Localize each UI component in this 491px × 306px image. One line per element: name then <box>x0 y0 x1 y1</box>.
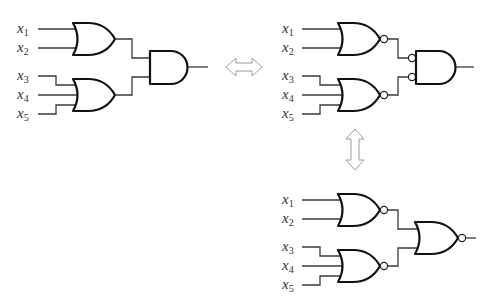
or-gate-2 <box>73 79 115 111</box>
logic-diagram <box>0 0 491 306</box>
nor-bubble-output <box>458 234 465 241</box>
circuit-nor-and <box>302 23 474 114</box>
label-x2: x2 <box>282 40 294 57</box>
label-x3: x3 <box>282 239 294 256</box>
wire-or1-to-and <box>115 39 150 58</box>
nor-gate-2 <box>338 250 380 282</box>
nor-gate-1 <box>338 23 380 55</box>
label-x5: x5 <box>17 106 29 123</box>
and-input-bubble-1 <box>408 54 415 61</box>
label-x4: x4 <box>17 87 29 104</box>
nor-bubble-2 <box>380 262 387 269</box>
nor-bubble-2 <box>380 91 387 98</box>
label-x5: x5 <box>282 106 294 123</box>
label-x5: x5 <box>282 277 294 294</box>
circuit-nor-nor <box>302 194 476 285</box>
nor-bubble-1 <box>380 35 387 42</box>
vertical-double-arrow-icon <box>346 129 364 170</box>
horizontal-double-arrow-icon <box>226 58 262 76</box>
label-x4: x4 <box>282 87 294 104</box>
wire-nor2-to-and <box>388 77 408 95</box>
or-gate-1 <box>73 23 115 55</box>
and-gate-inverted-inputs <box>416 51 455 84</box>
label-x1: x1 <box>282 192 294 209</box>
label-x2: x2 <box>17 40 29 57</box>
nor-gate-output <box>415 222 458 254</box>
wire-x3 <box>38 76 78 85</box>
wire-or2-to-and <box>115 77 150 95</box>
and-gate <box>150 51 187 84</box>
label-x4: x4 <box>282 258 294 275</box>
wire-nor1-to-nor3 <box>388 210 419 229</box>
nor-gate-2 <box>338 79 380 111</box>
wire-nor2-to-nor3 <box>388 248 419 266</box>
wire-nor1-to-and <box>388 39 408 58</box>
label-x3: x3 <box>17 68 29 85</box>
label-x2: x2 <box>282 211 294 228</box>
label-x1: x1 <box>282 21 294 38</box>
nor-bubble-1 <box>380 206 387 213</box>
nor-gate-1 <box>338 194 380 226</box>
and-input-bubble-2 <box>408 73 415 80</box>
label-x1: x1 <box>17 21 29 38</box>
label-x3: x3 <box>282 68 294 85</box>
wire-x5 <box>38 105 78 114</box>
circuit-or-and <box>38 23 208 114</box>
